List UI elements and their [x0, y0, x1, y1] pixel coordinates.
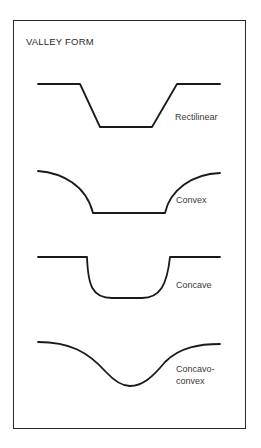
label-convex: Convex — [176, 194, 207, 206]
label-rectilinear: Rectilinear — [175, 111, 218, 123]
label-concavo-convex-line1: Concavo- — [176, 363, 215, 375]
valley-profiles — [0, 0, 261, 448]
label-concave: Concave — [176, 279, 212, 291]
concave-profile — [38, 257, 220, 298]
convex-profile — [38, 171, 220, 213]
label-concavo-convex-line2: convex — [176, 375, 205, 387]
